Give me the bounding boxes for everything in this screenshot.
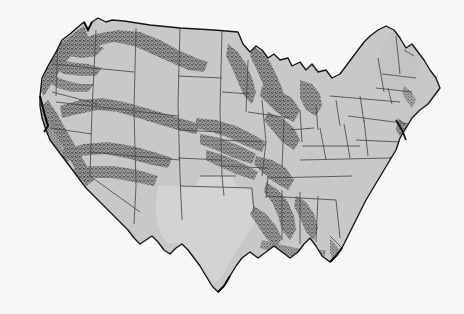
us-map-graphic [0, 0, 464, 314]
map-figure [0, 0, 464, 314]
region-texas [156, 176, 258, 284]
